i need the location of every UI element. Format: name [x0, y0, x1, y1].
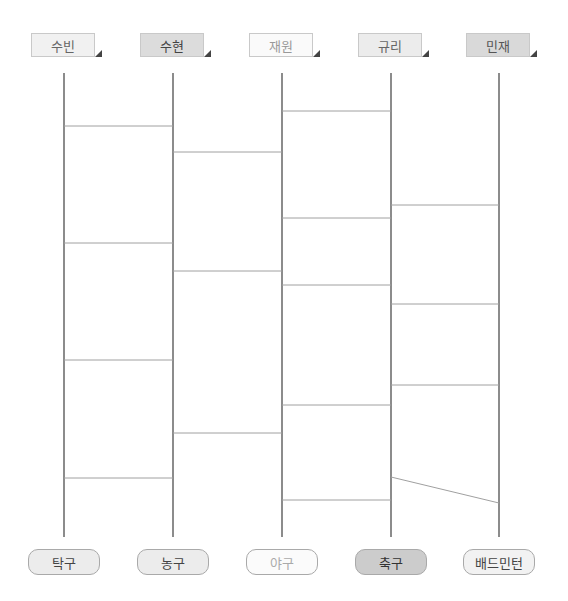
person-box-2: 재원: [249, 33, 313, 57]
person-box-1: 수현: [140, 33, 204, 57]
person-name: 수현: [160, 36, 184, 55]
sport-label: 배드민턴: [475, 553, 523, 572]
sport-label: 농구: [161, 553, 185, 572]
person-name: 민재: [486, 36, 510, 55]
corner-triangle-icon: [95, 50, 102, 57]
ladder-diagram: [0, 0, 568, 601]
corner-triangle-icon: [313, 50, 320, 57]
person-name: 재원: [269, 36, 293, 55]
person-box-3: 규리: [358, 33, 422, 57]
corner-triangle-icon: [530, 50, 537, 57]
person-name: 수빈: [51, 36, 75, 55]
ladder-rung: [391, 477, 499, 503]
sport-label: 야구: [270, 553, 294, 572]
sport-label: 탁구: [52, 553, 76, 572]
sport-pill-0: 탁구: [28, 549, 100, 575]
sport-pill-2: 야구: [246, 549, 318, 575]
sport-pill-4: 배드민턴: [463, 549, 535, 575]
corner-triangle-icon: [204, 50, 211, 57]
sport-pill-3: 축구: [355, 549, 427, 575]
person-box-4: 민재: [466, 33, 530, 57]
sport-label: 축구: [379, 553, 403, 572]
person-name: 규리: [378, 36, 402, 55]
corner-triangle-icon: [422, 50, 429, 57]
sport-pill-1: 농구: [137, 549, 209, 575]
person-box-0: 수빈: [31, 33, 95, 57]
